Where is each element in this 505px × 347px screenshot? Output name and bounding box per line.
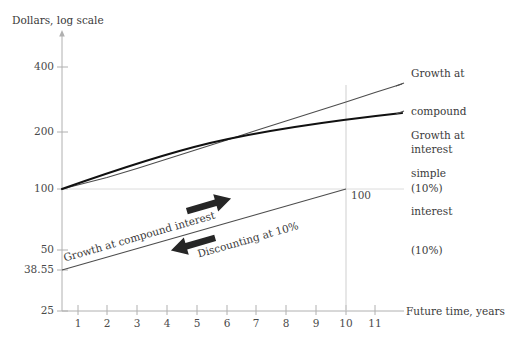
x-tick-label-8: 8	[276, 317, 296, 330]
y-tick-label-50: 50	[14, 243, 54, 256]
y-tick-label-38-55: 38.55	[4, 263, 54, 276]
x-tick-label-6: 6	[217, 317, 237, 330]
x-tick-label-9: 9	[306, 317, 326, 330]
y-axis	[59, 30, 65, 311]
legend-simple-line-3: interest	[411, 205, 465, 218]
y-tick-label-400: 400	[14, 60, 54, 73]
y-axis-title: Dollars, log scale	[12, 14, 104, 27]
x-tick-label-7: 7	[246, 317, 266, 330]
x-tick-label-10: 10	[336, 317, 356, 330]
x-tick-label-2: 2	[97, 317, 117, 330]
x-tick-label-3: 3	[127, 317, 147, 330]
simple-interest-curve	[62, 113, 402, 189]
legend-simple-line-2: simple	[411, 167, 465, 180]
legend-simple-interest: Growth at simple interest (10%)	[411, 103, 465, 282]
y-tick-label-25: 25	[14, 304, 54, 317]
x-tick-label-11: 11	[365, 317, 385, 330]
x-tick-label-4: 4	[157, 317, 177, 330]
legend-compound-line-1: Growth at	[411, 67, 466, 80]
x-axis-title: Future time, years	[406, 305, 505, 318]
legend-simple-line-4: (10%)	[411, 244, 465, 257]
discount-endpoint-value-label: 100	[351, 189, 371, 202]
compound-interest-curve	[62, 84, 402, 189]
y-tick-label-100: 100	[14, 182, 54, 195]
legend-simple-line-1: Growth at	[411, 129, 465, 142]
y-tick-label-200: 200	[14, 125, 54, 138]
x-tick-label-1: 1	[68, 317, 88, 330]
x-tick-marks	[78, 305, 375, 315]
legend-connectors	[396, 83, 404, 114]
x-tick-label-5: 5	[187, 317, 207, 330]
